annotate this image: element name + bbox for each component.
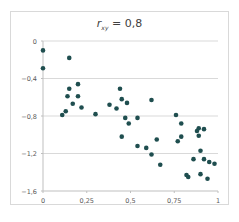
data-point: [125, 101, 130, 106]
data-point: [60, 113, 65, 118]
data-point: [202, 157, 207, 162]
data-point: [41, 48, 46, 53]
axes: [41, 41, 218, 193]
data-point: [119, 134, 124, 139]
data-point: [114, 106, 119, 111]
x-tick-label: 1: [216, 197, 220, 205]
data-point: [67, 87, 72, 92]
data-point: [67, 56, 72, 61]
y-tick-label: −0,8: [21, 113, 37, 121]
data-point: [107, 102, 112, 107]
data-point: [79, 105, 84, 110]
data-point: [149, 98, 154, 103]
data-point: [76, 82, 81, 87]
x-tick-label: 0: [41, 197, 45, 205]
data-point: [65, 94, 70, 99]
data-point: [135, 144, 140, 149]
x-tick-label: 0,25: [80, 197, 94, 205]
y-tick-label: 0: [33, 38, 37, 46]
x-tick-label: 0,75: [167, 197, 181, 205]
y-tick-label: −0,4: [21, 75, 37, 83]
data-point: [205, 177, 210, 182]
y-tick-labels: 0−0,4−0,8−1,2−1,6: [21, 38, 37, 196]
data-point: [154, 137, 159, 142]
data-point: [179, 121, 184, 126]
data-point: [123, 116, 128, 121]
data-point: [175, 139, 180, 144]
data-point: [191, 157, 196, 162]
data-point: [93, 112, 98, 117]
data-point: [119, 97, 124, 102]
data-point: [135, 116, 140, 121]
y-tick-label: −1,2: [21, 150, 37, 158]
data-point: [196, 133, 201, 138]
y-tick-label: −1,6: [21, 188, 37, 196]
data-point: [212, 162, 217, 167]
data-point: [70, 102, 75, 107]
scatter-plot: 0−0,4−0,8−1,2−1,6 00,250,50,751: [0, 0, 239, 222]
data-point: [198, 172, 203, 177]
data-point: [126, 121, 131, 126]
data-point: [41, 66, 46, 71]
x-tick-label: 0,5: [125, 197, 135, 205]
x-tick-labels: 00,250,50,751: [41, 197, 220, 205]
data-point: [207, 160, 212, 165]
data-point: [158, 162, 163, 167]
data-point: [174, 113, 179, 118]
data-point: [144, 146, 149, 151]
data-point: [198, 148, 203, 153]
data-point: [118, 87, 123, 92]
data-point: [76, 94, 81, 99]
data-point: [63, 109, 68, 114]
data-points: [41, 48, 217, 181]
data-point: [149, 152, 154, 157]
data-point: [179, 134, 184, 139]
data-point: [196, 126, 201, 131]
data-point: [202, 127, 207, 132]
data-point: [186, 175, 191, 180]
